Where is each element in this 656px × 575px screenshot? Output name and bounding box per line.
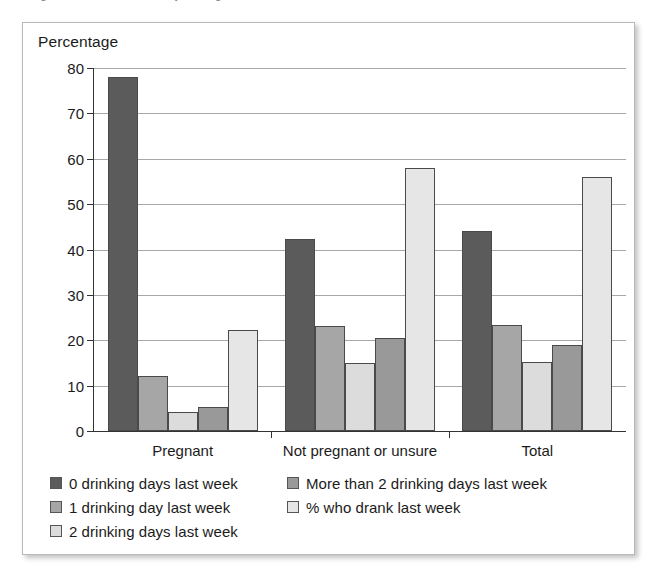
legend-item: 1 drinking day last week	[50, 495, 238, 519]
legend-swatch-icon	[50, 525, 62, 537]
x-axis-tick	[449, 431, 450, 438]
x-axis-category-label: Pregnant	[152, 442, 213, 459]
chart-legend: 0 drinking days last week1 drinking day …	[38, 471, 628, 549]
y-axis-tick-label: 40	[44, 241, 84, 258]
legend-item-label: 0 drinking days last week	[69, 475, 238, 492]
clipped-header-strip: ollege of Obstetricians and Gynecologist…	[0, 0, 656, 13]
x-axis-tick	[271, 431, 272, 438]
legend-item-label: 1 drinking day last week	[69, 499, 230, 516]
y-axis-tick-label: 70	[44, 105, 84, 122]
chart-title: Percentage	[38, 33, 118, 51]
y-axis-tick-label: 0	[44, 423, 84, 440]
y-axis-tick-label: 80	[44, 60, 84, 77]
bar	[285, 239, 315, 431]
legend-swatch-icon	[287, 477, 299, 489]
legend-item: % who drank last week	[287, 495, 547, 519]
y-axis-tick-label: 60	[44, 150, 84, 167]
legend-swatch-icon	[50, 477, 62, 489]
y-axis-tick-label: 50	[44, 196, 84, 213]
legend-column-2: More than 2 drinking days last week% who…	[287, 471, 547, 519]
y-axis-tick-label: 10	[44, 377, 84, 394]
legend-item: More than 2 drinking days last week	[287, 471, 547, 495]
legend-item-label: 2 drinking days last week	[69, 523, 238, 540]
y-axis-tick-label: 30	[44, 286, 84, 303]
bar	[198, 407, 228, 431]
bar	[108, 77, 138, 431]
y-axis-tick	[87, 431, 94, 432]
legend-swatch-icon	[50, 501, 62, 513]
bar	[492, 325, 522, 431]
bar	[582, 177, 612, 431]
y-axis-tick	[87, 340, 94, 341]
x-axis-category-label: Total	[521, 442, 553, 459]
bar	[375, 338, 405, 431]
bar	[138, 376, 168, 431]
plot-area	[94, 68, 626, 431]
bar	[552, 345, 582, 431]
bar	[315, 326, 345, 431]
legend-item-label: More than 2 drinking days last week	[306, 475, 547, 492]
legend-item-label: % who drank last week	[306, 499, 460, 516]
legend-swatch-icon	[287, 501, 299, 513]
bar	[405, 168, 435, 431]
y-axis-tick	[87, 204, 94, 205]
bar	[345, 363, 375, 431]
y-axis-tick	[87, 386, 94, 387]
y-axis-tick	[87, 159, 94, 160]
clipped-header-text: ollege of Obstetricians and Gynecologist…	[22, 0, 240, 1]
plot-wrapper: 01020304050607080 PregnantNot pregnant o…	[23, 61, 636, 443]
legend-item: 2 drinking days last week	[50, 519, 238, 543]
legend-column-1: 0 drinking days last week1 drinking day …	[50, 471, 238, 543]
y-axis-tick	[87, 295, 94, 296]
x-axis-category-label: Not pregnant or unsure	[283, 442, 437, 459]
legend-item: 0 drinking days last week	[50, 471, 238, 495]
chart-figure-frame: Percentage 01020304050607080 PregnantNot…	[22, 22, 635, 555]
bar	[168, 412, 198, 431]
x-axis-line	[93, 431, 626, 432]
bar	[462, 231, 492, 431]
y-axis-tick	[87, 68, 94, 69]
y-axis-tick	[87, 113, 94, 114]
bar	[228, 330, 258, 431]
bar	[522, 362, 552, 431]
y-axis-tick	[87, 250, 94, 251]
y-axis-tick-label: 20	[44, 332, 84, 349]
